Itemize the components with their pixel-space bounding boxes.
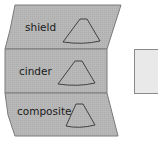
segment-label-cinder: cinder xyxy=(19,65,52,77)
segment-label-shield: shield xyxy=(25,21,56,33)
segment-stack: shield cinder composite xyxy=(0,0,130,142)
segment-label-composite: composite xyxy=(17,105,71,117)
side-panel-box xyxy=(134,49,158,94)
